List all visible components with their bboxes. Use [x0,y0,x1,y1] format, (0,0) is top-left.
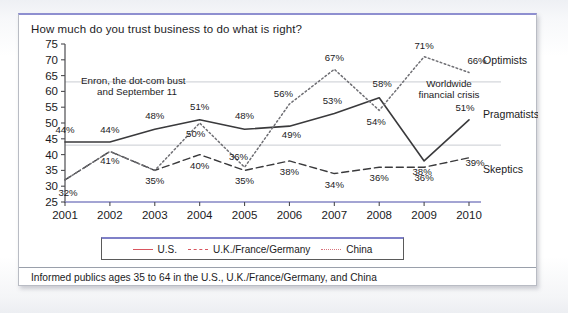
data-point-label: 34% [325,179,345,190]
legend-label-china: China [346,244,372,255]
data-point-label: 41% [100,155,120,166]
y-axis-tick-label: 75 [45,38,58,50]
y-axis-tick-label: 40 [45,149,58,161]
footnote-divider [19,267,536,268]
x-axis-tick-label: 2006 [277,209,303,221]
data-point-label: 44% [55,124,75,135]
series-line-skeptics [65,151,469,179]
legend-item-us[interactable]: U.S. [133,244,177,255]
line-dashed-icon [188,249,208,250]
y-axis-tick-label: 70 [45,54,58,66]
data-point-label: 36% [370,172,390,183]
data-point-label: 35% [145,175,165,186]
data-point-label: 50% [186,128,206,139]
data-point-label: 36% [229,151,249,162]
x-axis-tick-label: 2010 [456,209,482,221]
data-point-label: 38% [280,166,300,177]
data-point-label: 49% [282,129,302,140]
data-point-label: 58% [373,78,393,89]
chart-legend: U.S. U.K./France/Germany China [101,237,404,260]
x-axis-tick-label: 2004 [187,209,213,221]
data-point-label: 56% [274,88,294,99]
y-axis-tick-label: 65 [45,70,58,82]
data-point-label: 44% [100,124,120,135]
data-point-label: 35% [235,175,255,186]
data-point-label: 48% [235,110,255,121]
data-point-label: 51% [455,102,475,113]
annotation-enron-line1: Enron, the dot-com bust [81,75,186,86]
x-axis-tick-label: 2008 [366,209,392,221]
line-solid-icon [133,249,153,250]
series-group-label-optimists: Optimists [483,54,527,66]
annotation-crisis-line1: Worldwide [426,78,472,89]
data-point-label: 40% [190,160,210,171]
legend-item-china[interactable]: China [321,244,372,255]
x-axis-tick-label: 2007 [322,209,348,221]
data-point-label: 54% [367,116,387,127]
data-point-label: 67% [325,52,345,63]
legend-item-uk-france-germany[interactable]: U.K./France/Germany [188,244,310,255]
x-axis-tick-label: 2002 [97,209,123,221]
series-group-label-skeptics: Skeptics [483,163,523,175]
y-axis-tick-label: 30 [45,180,58,192]
annotation-enron-line2: and September 11 [97,86,177,97]
x-axis-tick-label: 2009 [411,209,437,221]
data-point-label: 51% [190,101,210,112]
data-point-label: 53% [323,95,343,106]
x-axis-tick-label: 2001 [52,209,78,221]
y-axis-tick-label: 25 [45,196,58,208]
y-axis-tick-label: 55 [45,101,58,113]
annotation-crisis-line2: financial crisis [419,89,480,100]
data-point-label: 32% [58,187,78,198]
line-dotted-icon [321,249,341,250]
chart-footnote: Informed publics ages 35 to 64 in the U.… [31,272,377,283]
series-group-label-pragmatists: Pragmatists [483,108,538,120]
legend-label-uk-france-germany: U.K./France/Germany [213,244,310,255]
data-point-label: 48% [145,110,165,121]
x-axis-tick-label: 2005 [232,209,258,221]
figure-frame: How much do you trust business to do wha… [18,13,537,286]
data-point-label: 71% [415,40,435,51]
y-axis-tick-label: 35 [45,164,58,176]
legend-label-us: U.S. [158,244,177,255]
x-axis-tick-label: 2003 [142,209,168,221]
data-point-label: 36% [415,172,435,183]
series-line-pragmatists [65,98,469,161]
y-axis-tick-label: 60 [45,85,58,97]
